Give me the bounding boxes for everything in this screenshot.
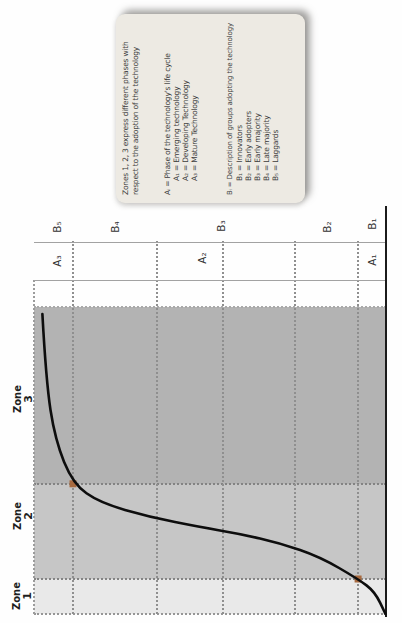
legend-a-item-1: A₁ = Emerging technology <box>172 20 181 181</box>
legend-intro-line1: Zones 1, 2, 3 express different phases w… <box>121 20 131 195</box>
legend-box: Zones 1, 2, 3 express different phases w… <box>116 14 305 203</box>
figure-root: B₅ B₄ B₃ B₂ B₁ A₃ A₂ A₁ Zone 3 Zone 2 Zo… <box>0 0 402 623</box>
legend-b-header: Bᵢ = Description of groups adopting the … <box>226 20 235 195</box>
legend-b-item-3: B₃ = Early majority <box>253 20 262 181</box>
legend-a-header: Aᵢ = Phase of the technology's life cycl… <box>163 20 172 195</box>
legend-b-item-1: B₁ = Innovators <box>235 20 244 181</box>
adoption-curve <box>42 314 385 614</box>
legend-b-item-5: B₅ = Laggards <box>271 20 280 181</box>
legend-a-item-2: A₂ = Developing Technology <box>181 20 190 181</box>
legend-b-item-2: B₂ = Early adopters <box>244 20 253 181</box>
legend-b-item-4: B₄ = Late majority <box>262 20 271 181</box>
legend-content: Zones 1, 2, 3 express different phases w… <box>116 14 305 203</box>
legend-a-item-3: A₃ = Mature Technology <box>190 20 199 181</box>
legend-intro-line2: respect to the adoption of the technolog… <box>131 20 141 195</box>
